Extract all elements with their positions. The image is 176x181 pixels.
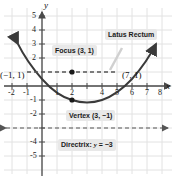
- ytick--1: -1: [30, 95, 37, 104]
- xtick-8: 8: [158, 88, 162, 97]
- right-endpoint-label: (7, 1): [122, 70, 142, 80]
- directrix-prefix: Directrix:: [61, 141, 94, 148]
- xtick-4: 4: [100, 88, 104, 97]
- vertex-callout: Vertex (3, −1): [66, 110, 115, 121]
- xtick--1: -1: [23, 88, 30, 97]
- ytick--4: -4: [30, 137, 37, 146]
- ytick-2: 2: [32, 53, 36, 62]
- latus-rectum-callout: Latus Rectum: [105, 29, 157, 40]
- ytick-3: 3: [32, 39, 36, 48]
- xtick-1: 1: [55, 88, 59, 97]
- latus-rectum-pointer: [110, 48, 122, 70]
- xtick-7: 7: [145, 88, 149, 97]
- xtick-2: 2: [70, 88, 74, 97]
- ytick--2: -2: [30, 109, 37, 118]
- parabola-figure: y x -2 -1 1 2 4 5 6 7 8 5 4 3 2 -1 -2 -4…: [0, 0, 176, 181]
- x-axis-label: x: [166, 81, 170, 91]
- y-axis-label: y: [44, 0, 48, 10]
- directrix-callout: Directrix: y = −3: [58, 139, 116, 151]
- xtick-5: 5: [115, 88, 119, 97]
- vertex-point: [69, 97, 74, 102]
- xtick-6: 6: [130, 88, 134, 97]
- ytick-5: 5: [32, 11, 36, 20]
- ytick-4: 4: [32, 25, 36, 34]
- xtick--2: -2: [8, 88, 15, 97]
- directrix-value: = −3: [97, 141, 113, 148]
- focus-callout: Focus (3, 1): [52, 45, 97, 56]
- focus-point: [69, 69, 74, 74]
- left-endpoint-label: (−1, 1): [0, 70, 25, 80]
- ytick--5: -5: [30, 151, 37, 160]
